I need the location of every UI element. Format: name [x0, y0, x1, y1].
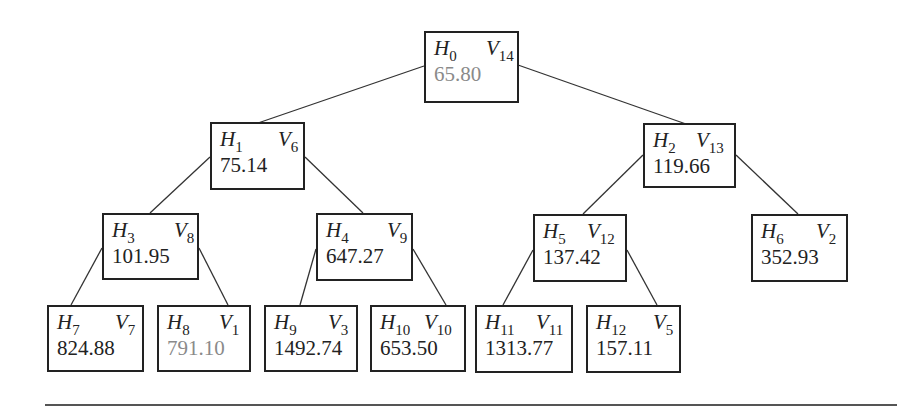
node-labels: H6V2: [761, 220, 846, 246]
node-value: 352.93: [761, 246, 846, 268]
edge-n0-n1: [258, 66, 424, 123]
tree-node-h11: H11V111313.77: [475, 305, 573, 373]
tree-node-h10: H10V10653.50: [370, 305, 466, 372]
node-labels: H3V8: [112, 219, 197, 245]
node-labels: H1V6: [220, 128, 303, 154]
node-labels: H8V1: [167, 311, 249, 337]
edge-n3-n7: [71, 248, 102, 305]
node-value: 119.66: [653, 155, 734, 177]
v-label: V2: [816, 220, 836, 242]
h-label: H0: [434, 37, 457, 59]
v-label: V5: [653, 311, 673, 333]
bottom-rule: [45, 404, 897, 406]
h-label: H11: [485, 311, 515, 333]
h-label: H5: [543, 220, 566, 242]
tree-node-h7: H7V7824.88: [47, 305, 144, 372]
tree-node-h0: H0V1465.80: [424, 31, 519, 103]
v-label: V1: [219, 311, 239, 333]
h-label: H7: [57, 311, 80, 333]
node-value: 101.95: [112, 245, 197, 267]
edge-n2-n6: [736, 155, 798, 214]
h-label: H6: [761, 220, 784, 242]
tree-node-h3: H3V8101.95: [102, 213, 199, 280]
h-label: H4: [326, 219, 349, 241]
edge-n4-n10: [413, 249, 446, 305]
node-labels: H5V12: [543, 220, 625, 246]
node-labels: H9V3: [274, 311, 356, 337]
v-label: V12: [587, 220, 615, 242]
h-label: H1: [220, 128, 243, 150]
node-labels: H4V9: [326, 219, 411, 245]
edge-n5-n11: [503, 250, 533, 305]
v-label: V10: [424, 311, 452, 333]
h-label: H8: [167, 311, 190, 333]
v-label: V3: [328, 311, 348, 333]
h-label: H3: [112, 219, 135, 241]
edge-n1-n4: [305, 157, 363, 213]
tree-node-h1: H1V675.14: [210, 122, 305, 190]
tree-node-h12: H12V5157.11: [586, 305, 681, 373]
node-value: 1492.74: [274, 337, 356, 359]
h-label: H9: [274, 311, 297, 333]
tree-node-h4: H4V9647.27: [316, 213, 413, 281]
node-value: 653.50: [380, 337, 464, 359]
node-value: 791.10: [167, 337, 249, 359]
tree-node-h2: H2V13119.66: [643, 123, 736, 188]
v-label: V9: [387, 219, 407, 241]
v-label: V11: [536, 311, 563, 333]
node-labels: H2V13: [653, 129, 734, 155]
edge-n2-n5: [583, 155, 643, 214]
h-label: H2: [653, 129, 676, 151]
edge-n5-n12: [627, 250, 657, 305]
edge-n0-n2: [518, 65, 686, 124]
edge-n3-n8: [199, 248, 228, 305]
tree-node-h5: H5V12137.42: [533, 214, 627, 282]
node-value: 824.88: [57, 337, 142, 359]
tree-node-h9: H9V31492.74: [264, 305, 358, 372]
v-label: V13: [696, 129, 724, 151]
node-value: 1313.77: [485, 337, 571, 359]
node-labels: H7V7: [57, 311, 142, 337]
node-labels: H12V5: [596, 311, 679, 337]
node-labels: H10V10: [380, 311, 464, 337]
v-label: V7: [115, 311, 135, 333]
edge-n4-n9: [300, 249, 316, 305]
node-value: 137.42: [543, 246, 625, 268]
edge-n1-n3: [150, 157, 210, 213]
tree-node-h8: H8V1791.10: [157, 305, 251, 372]
tree-node-h6: H6V2352.93: [751, 214, 848, 282]
node-value: 65.80: [434, 63, 517, 85]
node-labels: H11V11: [485, 311, 571, 337]
node-value: 75.14: [220, 154, 303, 176]
node-labels: H0V14: [434, 37, 517, 63]
node-value: 157.11: [596, 337, 679, 359]
v-label: V8: [174, 219, 194, 241]
v-label: V14: [486, 37, 514, 59]
v-label: V6: [278, 128, 298, 150]
h-label: H12: [596, 311, 626, 333]
node-value: 647.27: [326, 245, 411, 267]
h-label: H10: [380, 311, 410, 333]
